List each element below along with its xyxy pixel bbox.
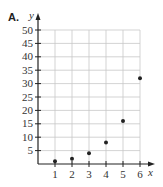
data-point <box>87 151 91 155</box>
y-tick-label: 10 <box>22 131 34 143</box>
problem-label: A. <box>8 11 19 23</box>
x-tick-label: 5 <box>120 168 126 180</box>
x-tick-label: 1 <box>52 168 58 180</box>
data-point <box>104 141 108 145</box>
y-axis-label: y <box>28 9 34 21</box>
x-axis-label: x <box>147 166 153 178</box>
data-point <box>138 76 142 80</box>
y-tick-label: 25 <box>22 91 34 103</box>
x-tick-label: 4 <box>103 168 109 180</box>
y-tick-label: 35 <box>22 64 34 76</box>
data-point <box>70 157 74 161</box>
grid-lines <box>38 30 140 164</box>
y-tick-label: 15 <box>22 117 34 129</box>
scatter-chart: A. 5101520253035404550 123456 y x <box>0 0 163 187</box>
y-tick-label: 40 <box>22 50 34 62</box>
axes <box>36 13 156 167</box>
x-tick-label: 6 <box>137 168 143 180</box>
x-tick-label: 3 <box>86 168 92 180</box>
data-point <box>53 159 57 163</box>
y-tick-label: 20 <box>22 104 34 116</box>
y-axis-arrow-icon <box>36 13 41 20</box>
data-point <box>121 119 125 123</box>
y-tick-label: 30 <box>22 77 34 89</box>
y-tick-label: 5 <box>28 144 34 156</box>
y-tick-label: 45 <box>22 37 34 49</box>
y-tick-label: 50 <box>22 24 34 36</box>
x-tick-label: 2 <box>69 168 75 180</box>
